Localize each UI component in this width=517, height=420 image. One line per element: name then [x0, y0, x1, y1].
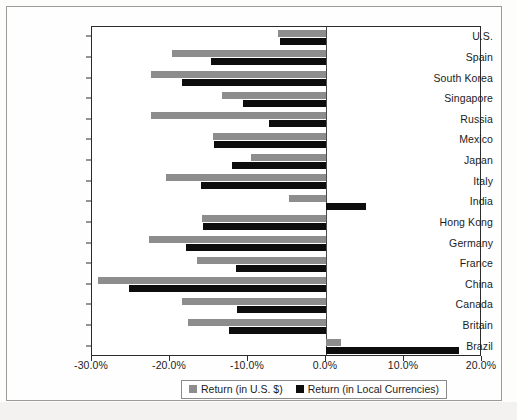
x-axis-tick	[325, 356, 326, 361]
bar-local	[326, 347, 459, 354]
legend-item-local: Return (in Local Currencies)	[296, 383, 439, 395]
chart-legend: Return (in U.S. $) Return (in Local Curr…	[181, 380, 447, 399]
chart-frame: -30.0%-20.0%-10.0%0.0%10.0%20.0% Return …	[6, 6, 502, 401]
zero-axis-line	[326, 27, 327, 355]
x-axis: -30.0%-20.0%-10.0%0.0%10.0%20.0%	[91, 359, 481, 377]
y-axis-tick	[86, 180, 91, 181]
y-axis-label: Britain	[463, 319, 493, 331]
bar-usd	[222, 92, 326, 99]
bar-local	[201, 182, 326, 189]
bar-local	[280, 38, 326, 45]
y-axis-tick	[86, 283, 91, 284]
bars-container	[92, 27, 480, 355]
bar-local	[243, 100, 326, 107]
y-axis-label: Brazil	[466, 340, 493, 352]
bar-usd	[278, 30, 326, 37]
y-axis-label: U.S.	[472, 30, 493, 42]
y-axis-tick	[86, 139, 91, 140]
bar-usd	[197, 257, 326, 264]
plot-area	[91, 26, 481, 356]
bar-local	[229, 327, 326, 334]
y-axis-tick	[86, 304, 91, 305]
bar-usd	[289, 195, 326, 202]
x-axis-tick	[169, 356, 170, 361]
y-axis-tick	[86, 160, 91, 161]
y-axis-label: Italy	[473, 175, 493, 187]
y-axis-label: Mexico	[459, 133, 493, 145]
y-axis	[7, 26, 87, 356]
bar-local	[182, 79, 326, 86]
y-axis-label: Canada	[456, 298, 493, 310]
y-axis-label: China	[465, 278, 493, 290]
bar-usd	[151, 71, 326, 78]
page-edge	[0, 402, 517, 420]
y-axis-label: South Korea	[434, 72, 493, 84]
bar-usd	[326, 339, 341, 346]
y-axis-label: Hong Kong	[440, 216, 493, 228]
bar-usd	[98, 277, 326, 284]
bar-local	[326, 203, 366, 210]
y-axis-tick	[86, 345, 91, 346]
bar-usd	[188, 319, 326, 326]
bar-local	[237, 306, 326, 313]
y-axis-label: Singapore	[444, 92, 493, 104]
x-axis-tick	[481, 356, 482, 361]
bar-usd	[182, 298, 326, 305]
y-axis-label: Spain	[466, 51, 493, 63]
x-axis-tick	[247, 356, 248, 361]
bar-usd	[213, 133, 326, 140]
gray-swatch-icon	[189, 385, 197, 393]
black-swatch-icon	[296, 385, 304, 393]
bar-usd	[202, 215, 326, 222]
y-axis-tick	[86, 98, 91, 99]
y-axis-label: France	[460, 257, 493, 269]
y-axis-tick	[86, 242, 91, 243]
chart-page: -30.0%-20.0%-10.0%0.0%10.0%20.0% Return …	[0, 0, 517, 420]
bar-usd	[251, 154, 326, 161]
bar-local	[232, 162, 326, 169]
bar-local	[186, 244, 326, 251]
y-axis-tick	[86, 56, 91, 57]
bar-local	[269, 120, 326, 127]
y-axis-label: Russia	[460, 113, 493, 125]
y-axis-tick	[86, 118, 91, 119]
y-axis-label: Japan	[464, 154, 493, 166]
bar-local	[236, 265, 326, 272]
y-axis-tick	[86, 325, 91, 326]
bar-usd	[151, 112, 326, 119]
legend-item-usd: Return (in U.S. $)	[189, 383, 283, 395]
legend-label-usd: Return (in U.S. $)	[201, 383, 283, 395]
x-axis-tick	[403, 356, 404, 361]
y-axis-tick	[86, 263, 91, 264]
y-axis-tick	[86, 77, 91, 78]
y-axis-label: Germany	[449, 237, 493, 249]
bar-usd	[149, 236, 326, 243]
legend-label-local: Return (in Local Currencies)	[308, 383, 439, 395]
y-axis-tick	[86, 201, 91, 202]
bar-usd	[172, 50, 326, 57]
x-axis-tick	[91, 356, 92, 361]
y-axis-tick	[86, 221, 91, 222]
bar-local	[214, 141, 326, 148]
bar-local	[203, 223, 326, 230]
y-axis-label: India	[470, 195, 493, 207]
bar-usd	[166, 174, 326, 181]
bar-local	[211, 58, 326, 65]
bar-local	[129, 285, 326, 292]
y-axis-tick	[86, 36, 91, 37]
